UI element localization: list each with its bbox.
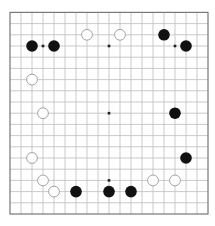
star-point — [108, 45, 111, 48]
black-stone — [180, 40, 192, 52]
star-point — [174, 45, 177, 48]
white-stone — [49, 186, 60, 197]
black-stone — [103, 186, 115, 198]
white-stone — [170, 175, 181, 186]
black-stone — [158, 29, 170, 41]
black-stone — [180, 152, 192, 164]
black-stone — [26, 40, 38, 52]
white-stone — [82, 29, 93, 40]
black-stone — [48, 40, 60, 52]
star-point — [108, 179, 111, 182]
white-stone — [38, 108, 49, 119]
go-board — [0, 0, 215, 226]
star-point — [42, 45, 45, 48]
white-stone — [27, 153, 38, 164]
star-point — [108, 112, 111, 115]
white-stone — [38, 175, 49, 186]
white-stone — [27, 74, 38, 85]
black-stone — [125, 186, 137, 198]
white-stone — [115, 29, 126, 40]
black-stone — [169, 107, 181, 119]
black-stone — [70, 186, 82, 198]
white-stone — [148, 175, 159, 186]
